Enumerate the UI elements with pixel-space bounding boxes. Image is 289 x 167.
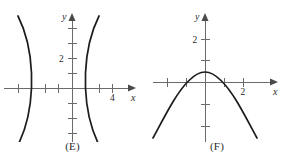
hyperbola-right-branch [86, 16, 100, 142]
x-axis-label-E: x [130, 92, 136, 103]
panel-F: y x 2 2 (F) [145, 0, 289, 167]
y-axis-arrow-E [69, 13, 76, 21]
caption-E: (E) [0, 140, 145, 152]
figure-container: y x 4 2 (E) [0, 0, 289, 167]
plot-area-F: y x 2 2 [145, 0, 289, 142]
y-axis-label-E: y [61, 11, 67, 22]
caption-F: (F) [145, 140, 289, 152]
y-axis-arrow-F [202, 13, 209, 21]
x-axis-arrow-F [270, 79, 278, 86]
x-axis-arrow-E [128, 85, 136, 92]
x-tick-label-4-E: 4 [110, 93, 115, 103]
graph-E: y x 4 2 [0, 0, 145, 142]
x-tick-label-2-F: 2 [241, 87, 246, 97]
panel-E: y x 4 2 (E) [0, 0, 145, 167]
y-tick-label-2-F: 2 [193, 35, 198, 45]
x-axis-label-F: x [272, 86, 278, 97]
plot-area-E: y x 4 2 [0, 0, 145, 142]
y-tick-label-2-E: 2 [59, 54, 64, 64]
hyperbola-left-branch [18, 16, 32, 142]
y-axis-label-F: y [194, 11, 200, 22]
graph-F: y x 2 2 [145, 0, 289, 142]
